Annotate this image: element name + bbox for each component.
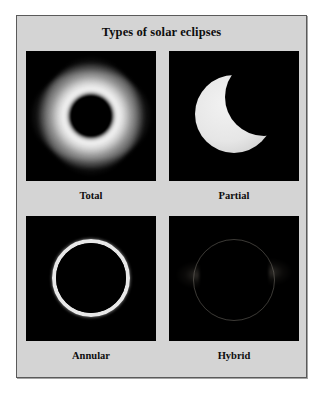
eclipse-cell-partial: Partial	[169, 51, 299, 202]
annular-eclipse-photo	[26, 216, 156, 341]
total-eclipse-photo	[26, 51, 156, 181]
eclipse-figure-plate: Types of solar eclipses Total Partial An…	[16, 15, 307, 378]
figure-title: Types of solar eclipses	[17, 25, 306, 39]
eclipse-cell-hybrid: Hybrid	[169, 216, 299, 362]
eclipse-label-annular: Annular	[26, 350, 156, 362]
eclipse-label-total: Total	[26, 190, 156, 202]
partial-eclipse-photo	[169, 51, 299, 181]
eclipse-label-partial: Partial	[169, 190, 299, 202]
hybrid-eclipse-photo	[169, 216, 299, 341]
eclipse-cell-annular: Annular	[26, 216, 156, 362]
moon-disk-icon	[225, 58, 299, 136]
faint-ring-icon	[193, 239, 275, 321]
moon-disk-icon	[56, 243, 126, 313]
moon-disk-icon	[72, 97, 110, 135]
eclipse-cell-total: Total	[26, 51, 156, 202]
eclipse-label-hybrid: Hybrid	[169, 350, 299, 362]
